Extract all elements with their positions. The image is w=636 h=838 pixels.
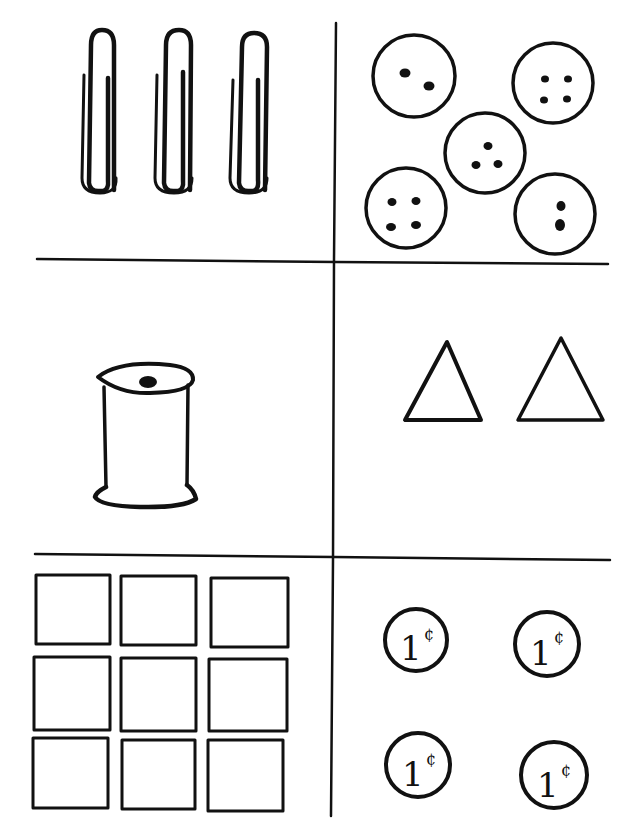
panel-buttons — [366, 35, 595, 254]
button-icon — [366, 168, 446, 248]
coin-value: 1 — [400, 628, 422, 668]
counting-worksheet: 1 ¢ 1 ¢ 1 ¢ 1 ¢ — [0, 0, 636, 838]
thread-spool-icon — [95, 364, 196, 507]
square-icon — [121, 658, 196, 731]
penny-icon: 1 ¢ — [386, 733, 450, 797]
square-icon — [121, 576, 196, 645]
square-icon — [209, 659, 287, 731]
coin-unit: ¢ — [561, 761, 571, 780]
coin-value: 1 — [530, 633, 552, 673]
penny-icon: 1 ¢ — [385, 609, 447, 671]
button-icon — [515, 174, 595, 254]
coin-unit: ¢ — [424, 625, 434, 644]
button-icon — [373, 35, 455, 117]
square-icon — [36, 575, 110, 644]
coin-value: 1 — [402, 754, 424, 794]
square-icon — [33, 738, 108, 808]
square-icon — [208, 740, 283, 811]
paperclip-icon — [155, 30, 192, 193]
panel-squares — [33, 575, 288, 811]
paperclip-icon — [230, 33, 267, 193]
paperclip-icon — [82, 30, 116, 193]
horizontal-divider-bottom — [35, 554, 610, 560]
coin-unit: ¢ — [426, 750, 436, 769]
panel-paperclips — [82, 30, 267, 193]
horizontal-divider-top — [37, 259, 608, 264]
triangle-icon — [405, 342, 481, 420]
panel-triangles — [405, 338, 603, 420]
panel-spool — [95, 364, 196, 507]
triangle-icon — [518, 338, 603, 420]
square-icon — [122, 740, 195, 809]
penny-icon: 1 ¢ — [521, 742, 587, 808]
button-icon — [445, 113, 525, 193]
button-icon — [513, 43, 593, 123]
vertical-divider — [331, 23, 336, 816]
panel-pennies: 1 ¢ 1 ¢ 1 ¢ 1 ¢ — [385, 609, 587, 808]
coin-value: 1 — [537, 765, 559, 805]
penny-icon: 1 ¢ — [515, 612, 579, 676]
square-icon — [211, 578, 288, 647]
coin-unit: ¢ — [554, 628, 564, 647]
square-icon — [34, 657, 110, 730]
